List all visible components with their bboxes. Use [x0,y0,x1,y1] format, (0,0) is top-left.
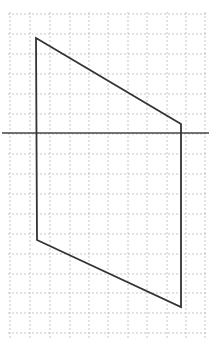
dotted-grid [8,12,208,340]
geometry-figure [0,0,211,358]
quadrilateral-shape [36,38,181,307]
diagram-canvas [0,0,211,358]
